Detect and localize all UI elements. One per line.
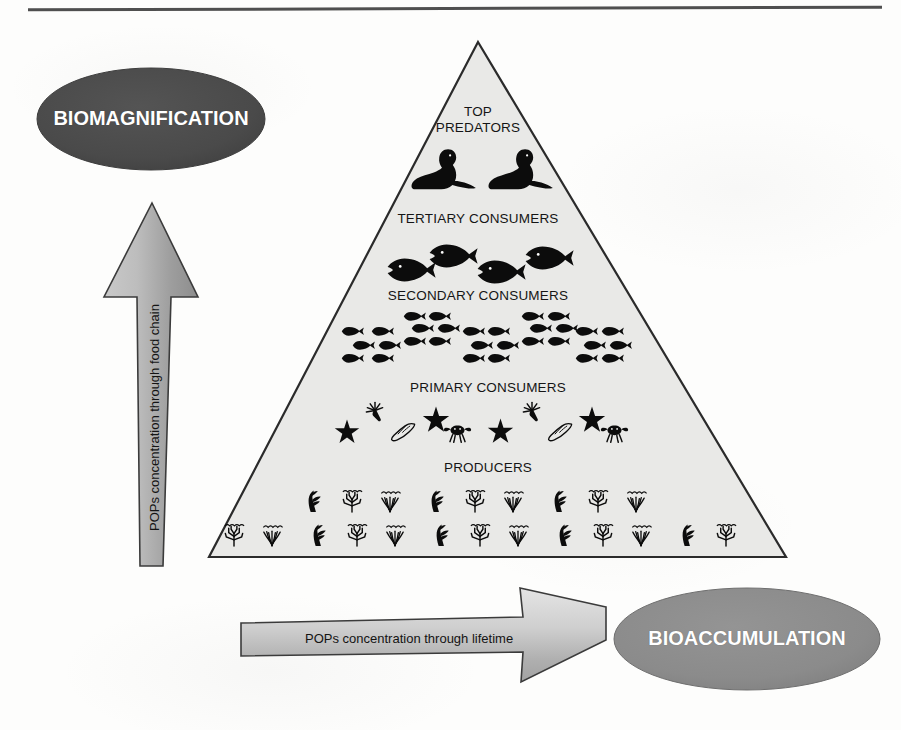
figure-canvas: BIOMAGNIFICATION BIOACCUMULATION POPs co… xyxy=(0,0,901,730)
tier-label-tertiary-consumers: TERTIARY CONSUMERS xyxy=(379,211,577,227)
tier-label-secondary-consumers: SECONDARY CONSUMERS xyxy=(368,288,588,304)
vertical-arrow-label: POPs concentration through food chain xyxy=(147,304,162,531)
tier-label-primary-consumers: PRIMARY CONSUMERS xyxy=(385,380,591,396)
bioaccumulation-label: BIOACCUMULATION xyxy=(614,627,880,650)
tier-label-producers: PRODUCERS xyxy=(417,460,559,476)
tier-label-top-predators: TOP PREDATORS xyxy=(400,104,556,135)
biomagnification-label: BIOMAGNIFICATION xyxy=(37,107,265,130)
horizontal-arrow-label: POPs concentration through lifetime xyxy=(305,631,513,646)
